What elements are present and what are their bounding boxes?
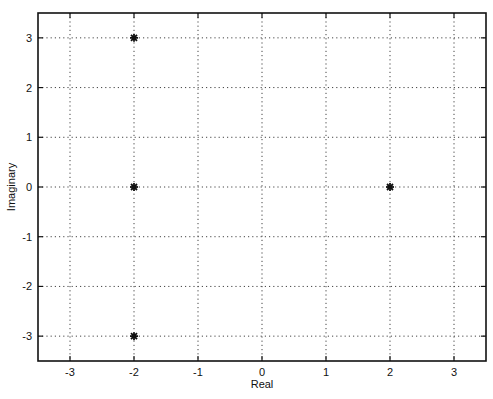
x-tick-label: 1 (323, 366, 329, 378)
y-tick-label: 0 (26, 181, 32, 193)
y-tick-label: 3 (26, 32, 32, 44)
pole-plot: -3-2-10123 -3-2-10123 Real Imaginary (0, 0, 493, 399)
asterisk-marker-icon (130, 332, 138, 340)
x-tick-label: 0 (259, 366, 265, 378)
x-tick-label: -3 (65, 366, 75, 378)
asterisk-marker-icon (386, 183, 394, 191)
x-tick-label: -2 (129, 366, 139, 378)
y-tick-label: -3 (22, 330, 32, 342)
y-tick-label: 1 (26, 131, 32, 143)
x-tick-label: -1 (193, 366, 203, 378)
y-tick-label: -1 (22, 231, 32, 243)
y-axis-label: Imaginary (5, 162, 17, 211)
asterisk-marker-icon (130, 34, 138, 42)
x-tick-label: 3 (451, 366, 457, 378)
y-tick-label: 2 (26, 82, 32, 94)
x-tick-labels: -3-2-10123 (65, 366, 457, 378)
x-tick-label: 2 (387, 366, 393, 378)
asterisk-marker-icon (130, 183, 138, 191)
y-tick-label: -2 (22, 280, 32, 292)
data-points (130, 34, 394, 340)
y-tick-labels: -3-2-10123 (22, 32, 32, 342)
grid-lines (38, 13, 486, 361)
x-axis-label: Real (251, 378, 274, 390)
